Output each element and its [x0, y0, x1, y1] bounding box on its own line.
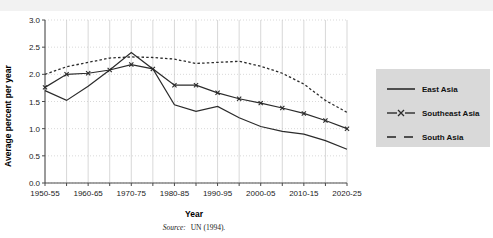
legend-item-east-asia: East Asia: [386, 83, 458, 95]
source-note-value: UN (1994).: [191, 223, 226, 232]
legend-swatch-x-marker-line: [386, 108, 416, 118]
legend-swatch-dashed-line: [386, 132, 416, 142]
grid-layer: [45, 20, 347, 183]
chart-legend: East Asia Southeast Asia South Asia: [376, 69, 490, 147]
x-tick-label: 2000-05: [246, 189, 276, 198]
source-note: Source: UN (1994).: [163, 223, 226, 232]
axes-layer: [42, 20, 347, 186]
y-tick-label: 1.0: [29, 125, 41, 134]
legend-item-southeast-asia: Southeast Asia: [386, 107, 480, 119]
y-tick-label: 0.5: [29, 152, 41, 161]
legend-label-east-asia: East Asia: [422, 85, 458, 94]
legend-label-south-asia: South Asia: [422, 133, 463, 142]
legend-swatch-solid-line: [386, 84, 416, 94]
y-tick-label: 2.0: [29, 70, 41, 79]
y-tick-label: 2.5: [29, 43, 41, 52]
figure-container: 0.00.51.01.52.02.53.01950-551960-651970-…: [0, 11, 493, 238]
x-tick-label: 1990-95: [203, 189, 233, 198]
y-tick-label: 3.0: [29, 16, 41, 25]
scan-artifact-band: [0, 0, 493, 11]
y-tick-label: 1.5: [29, 98, 41, 107]
axis-labels-layer: 0.00.51.01.52.02.53.01950-551960-651970-…: [29, 16, 362, 198]
x-tick-label: 1950-55: [30, 189, 60, 198]
y-axis-title: Average percent per year: [3, 64, 13, 166]
legend-item-south-asia: South Asia: [386, 131, 463, 143]
x-tick-label: 2010-15: [289, 189, 319, 198]
x-tick-label: 1980-85: [160, 189, 190, 198]
legend-label-southeast-asia: Southeast Asia: [422, 109, 480, 118]
y-tick-label: 0.0: [29, 179, 41, 188]
x-tick-label: 1960-65: [73, 189, 103, 198]
x-tick-label: 2020-25: [332, 189, 362, 198]
source-note-prefix: Source:: [163, 223, 186, 232]
x-tick-label: 1970-75: [117, 189, 147, 198]
x-axis-title: Year: [185, 209, 204, 219]
